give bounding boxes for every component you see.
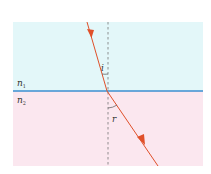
incidence-angle-label: i <box>101 63 104 73</box>
refraction-angle-label: r <box>112 114 117 124</box>
refraction-diagram: i r n1 n2 <box>0 0 211 174</box>
